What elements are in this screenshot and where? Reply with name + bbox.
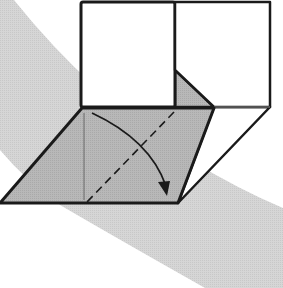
left-square — [81, 2, 175, 107]
origami-diagram — [0, 0, 283, 288]
